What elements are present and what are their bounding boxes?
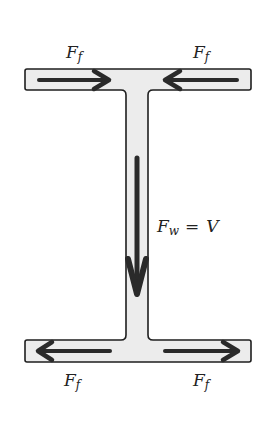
label-web-force: Fw=V [156,216,220,238]
label-top-right: Ff [192,42,212,64]
label-top-left: Ff [65,42,85,64]
label-bottom-right: Ff [192,370,212,392]
i-beam-diagram: Ff Ff Fw=V Ff Ff [0,0,273,437]
label-bottom-left: Ff [63,370,83,392]
